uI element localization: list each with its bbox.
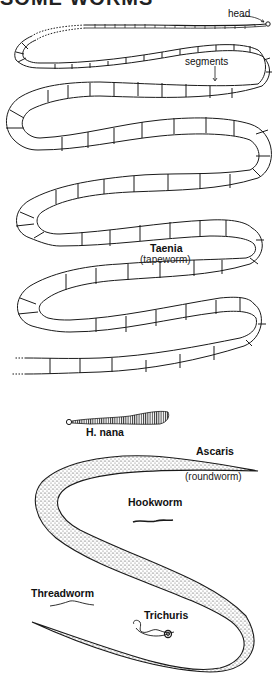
tapeworm-drawing (6, 22, 272, 374)
h-nana-label: H. nana (86, 427, 124, 438)
ascaris-drawing (32, 456, 258, 672)
ascaris-label: Ascaris (196, 446, 234, 457)
tapeworm-head-icon (266, 22, 270, 26)
hookworm-label: Hookworm (128, 497, 182, 508)
taenia-common-name: (tapeworm) (140, 254, 191, 265)
taenia-label: Taenia (150, 243, 182, 254)
threadworm-label: Threadworm (31, 588, 94, 599)
hookworm-drawing (133, 520, 173, 522)
ascaris-common-name: (roundworm) (185, 471, 242, 482)
trichuris-label: Trichuris (144, 610, 188, 621)
head-label: head (228, 8, 250, 19)
h-nana-drawing (66, 411, 168, 424)
segments-label: segments (185, 56, 228, 67)
trichuris-drawing (133, 620, 174, 637)
worm-illustration (0, 0, 278, 674)
threadworm-drawing (50, 601, 94, 606)
